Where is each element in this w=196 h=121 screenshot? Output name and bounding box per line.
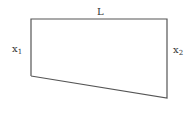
trapezoid-outline — [31, 19, 167, 98]
left-height-label: x1 — [12, 43, 22, 56]
top-length-label: L — [97, 6, 104, 17]
trapezoid-diagram: L x1 x2 — [0, 0, 196, 121]
right-height-label: x2 — [173, 44, 183, 57]
